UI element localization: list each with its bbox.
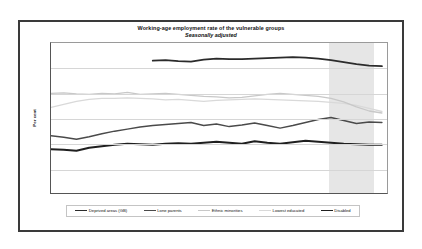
line-series (51, 118, 382, 140)
line-series (51, 141, 382, 151)
legend-swatch-icon (75, 210, 87, 211)
plot-area-wrapper: Per cent 4045505560657020032004200520062… (50, 42, 388, 194)
legend-label: Lowest educated (273, 209, 305, 213)
legend-item[interactable]: Disabled (321, 209, 351, 213)
gridline (51, 170, 387, 171)
legend-label: Ethnic minorities (212, 209, 243, 213)
chart-frame: Working-age employment rate of the vulne… (18, 20, 404, 232)
legend-label: Deprived areas (GB) (89, 209, 127, 213)
plot-area: 4045505560657020032004200520062007200820… (50, 42, 388, 194)
chart-subtitle: Seasonally adjusted (20, 32, 402, 39)
legend-item[interactable]: Lone parents (144, 209, 182, 213)
chart-legend: Deprived areas (GB)Lone parentsEthnic mi… (66, 205, 360, 217)
legend-label: Disabled (334, 209, 350, 213)
legend-label: Lone parents (157, 209, 181, 213)
title-block: Working-age employment rate of the vulne… (20, 25, 402, 39)
y-axis-label: Per cent (32, 109, 37, 126)
gridline (51, 68, 387, 69)
line-series (51, 98, 382, 112)
legend-swatch-icon (198, 210, 210, 211)
legend-swatch-icon (259, 210, 271, 211)
gridline (51, 119, 387, 120)
chart-title: Working-age employment rate of the vulne… (20, 25, 402, 32)
legend-swatch-icon (144, 210, 156, 211)
legend-item[interactable]: Ethnic minorities (198, 209, 242, 213)
gridline (51, 94, 387, 95)
legend-swatch-icon (321, 210, 333, 211)
line-series (153, 57, 382, 66)
gridline (51, 144, 387, 145)
legend-item[interactable]: Deprived areas (GB) (75, 209, 127, 213)
legend-item[interactable]: Lowest educated (259, 209, 304, 213)
